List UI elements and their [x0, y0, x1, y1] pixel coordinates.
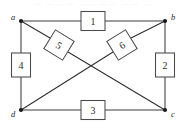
- element-3-label: 3: [91, 105, 96, 116]
- element-1-label: 1: [91, 16, 96, 27]
- vertex-dot-d: [19, 108, 23, 112]
- element-box-3[interactable]: 3: [81, 101, 105, 120]
- vertex-label-c: c: [171, 109, 175, 119]
- edge-b-d-upper-segment: [131, 21, 165, 38]
- vertex-dot-b: [163, 19, 167, 23]
- network-diagram-figure: — ——— ———— —— — 1 2: [0, 0, 188, 129]
- vertex-label-a: a: [11, 12, 15, 22]
- vertex-dot-c: [163, 108, 167, 112]
- element-box-4[interactable]: 4: [12, 53, 31, 77]
- element-box-1[interactable]: 1: [81, 12, 105, 31]
- element-box-2[interactable]: 2: [156, 53, 175, 77]
- vertex-label-d: d: [11, 109, 16, 119]
- edge-group-diagonals: [21, 21, 165, 110]
- element-box-5[interactable]: 5: [44, 30, 74, 60]
- element-2-label: 2: [163, 60, 168, 71]
- element-box-6[interactable]: 6: [107, 30, 137, 60]
- vertex-dot-a: [19, 19, 23, 23]
- diagram-canvas: 1 2 3 4 5 6 a: [0, 0, 188, 129]
- element-4-label: 4: [19, 60, 24, 71]
- edge-a-c-upper-segment: [21, 21, 50, 38]
- vertex-label-b: b: [171, 12, 175, 22]
